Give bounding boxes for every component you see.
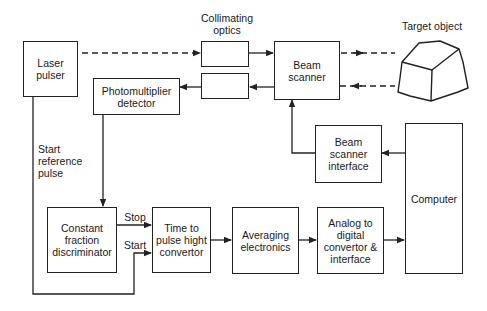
photomultiplier-detector-block: Photomultiplier detector — [93, 78, 180, 115]
analog-to-digital-convertor-block: Analog to digital convertor & interface — [317, 207, 384, 274]
beam-scanner-interface-block: Beam scanner interface — [315, 125, 382, 183]
target-object-icon — [398, 41, 468, 101]
start-reference-pulse-label: Start reference pulse — [38, 143, 98, 179]
beam-scanner-block: Beam scanner — [274, 41, 340, 100]
collimating-optics-label: Collimating optics — [197, 12, 257, 36]
computer-block: Computer — [405, 123, 463, 274]
target-object-label: Target object — [392, 20, 472, 32]
collimating-optics-out-block — [201, 41, 249, 67]
averaging-electronics-block: Averaging electronics — [232, 207, 299, 274]
start-label: Start — [120, 239, 150, 251]
collimating-optics-in-block — [201, 73, 249, 99]
time-to-pulse-height-convertor-block: Time to pulse hight convertor — [152, 207, 211, 273]
laser-pulser-block: Laser pulser — [23, 41, 78, 97]
constant-fraction-discriminator-block: Constant fraction discriminator — [47, 207, 117, 273]
interface-to-scanner-arrow — [292, 100, 315, 153]
stop-label: Stop — [120, 211, 150, 223]
